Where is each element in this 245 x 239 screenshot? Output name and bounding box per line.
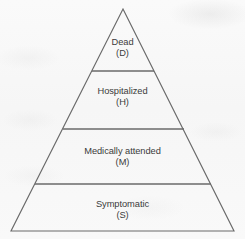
tier-label-hospitalized: Hospitalized (H) [0,86,245,109]
tier-code-symptomatic: (S) [0,210,245,221]
tier-label-dead: Dead (D) [0,37,245,60]
pyramid-diagram: Dead (D) Hospitalized (H) Medically atte… [0,0,245,239]
tier-label-symptomatic-text: Symptomatic [96,199,149,209]
tier-label-hospitalized-text: Hospitalized [97,86,147,96]
tier-label-symptomatic: Symptomatic (S) [0,199,245,222]
tier-code-hospitalized: (H) [0,97,245,108]
tier-code-dead: (D) [0,48,245,59]
tier-code-medically-attended: (M) [0,157,245,168]
tier-label-medically-attended-text: Medically attended [84,146,161,156]
tier-label-medically-attended: Medically attended (M) [0,146,245,169]
tier-label-dead-text: Dead [111,37,133,47]
